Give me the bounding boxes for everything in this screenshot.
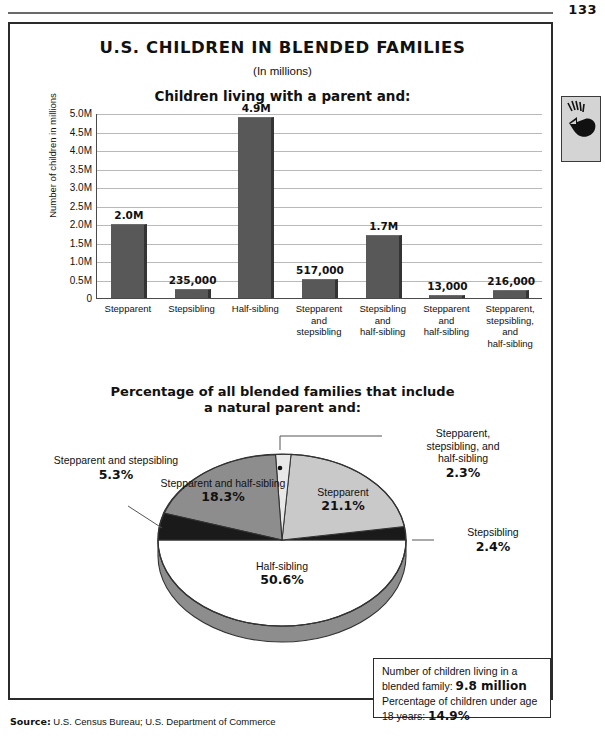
bar-value-label: 4.9M bbox=[224, 102, 288, 114]
bar-value-label: 13,000 bbox=[415, 280, 479, 292]
gridline bbox=[97, 133, 542, 134]
y-axis-tick-label: 3.0M bbox=[56, 183, 92, 193]
fact-row-number-of-children: Number of children living in a blended f… bbox=[382, 664, 543, 693]
y-axis-tick-label: 0 bbox=[56, 294, 92, 304]
bar bbox=[175, 289, 211, 298]
bar-value-label: 1.7M bbox=[352, 220, 416, 232]
pie-label-stepparent: Stepparent 21.1% bbox=[291, 486, 395, 512]
pie-label-stepparent-halfsibling: Stepparent and half-sibling 18.3% bbox=[160, 477, 286, 503]
y-axis-tick-label: 2.0M bbox=[56, 220, 92, 230]
pie-label-stepparent-value: 21.1% bbox=[291, 500, 395, 513]
pie-heading-line-1: Percentage of all blended families that … bbox=[111, 384, 455, 399]
page-number: 133 bbox=[568, 2, 597, 17]
figure-frame: U.S. CHILDREN IN BLENDED FAMILIES (In mi… bbox=[8, 22, 553, 700]
gridline bbox=[97, 262, 542, 263]
bar bbox=[429, 295, 465, 298]
bar-value-label: 517,000 bbox=[288, 264, 352, 276]
summary-fact-box: Number of children living in a blended f… bbox=[373, 658, 551, 718]
bar bbox=[366, 235, 402, 298]
pie-label-all-three: Stepparent, stepsibling, and half-siblin… bbox=[388, 427, 538, 479]
source-label: Source: bbox=[10, 716, 51, 727]
y-axis-tick-label: 4.0M bbox=[56, 146, 92, 156]
gridline bbox=[97, 225, 542, 226]
bar-chart-plot-area: 2.0M235,0004.9M517,0001.7M13,000216,000 bbox=[96, 114, 542, 299]
header-rule bbox=[8, 12, 553, 14]
bar bbox=[111, 224, 147, 298]
pie-chart-heading: Percentage of all blended families that … bbox=[10, 384, 555, 416]
gridline bbox=[97, 151, 542, 152]
bar bbox=[493, 290, 529, 298]
pie-label-all-three-line-1: Stepparent, bbox=[436, 427, 490, 439]
pie-label-stepparent-stepsibling-name: Stepparent and stepsibling bbox=[54, 454, 178, 466]
source-text: U.S. Census Bureau; U.S. Department of C… bbox=[53, 716, 275, 727]
pie-label-all-three-line-3: half-sibling bbox=[438, 452, 488, 464]
fact-value-number-of-children: 9.8 million bbox=[456, 679, 527, 693]
pie-label-stepparent-halfsibling-name: Stepparent and half-sibling bbox=[161, 477, 286, 489]
y-axis-tick-label: 4.5M bbox=[56, 128, 92, 138]
gridline bbox=[97, 188, 542, 189]
bar-value-label: 2.0M bbox=[97, 209, 161, 221]
source-note: Source: U.S. Census Bureau; U.S. Departm… bbox=[10, 716, 276, 727]
y-axis-tick-label: 3.5M bbox=[56, 165, 92, 175]
pie-label-halfsibling: Half-sibling 50.6% bbox=[216, 560, 348, 586]
bar-chart-y-axis-ticks: 00.5M1.0M1.5M2.0M2.5M3.0M3.5M4.0M4.5M5.0… bbox=[42, 114, 92, 299]
pie-label-stepsibling-name: Stepsibling bbox=[467, 526, 518, 538]
fact-value-percentage-under-18: 14.9% bbox=[428, 709, 470, 723]
gridline bbox=[97, 114, 542, 115]
pie-label-all-three-line-2: stepsibling, and bbox=[427, 440, 500, 452]
gridline bbox=[97, 170, 542, 171]
figure-subtitle: (In millions) bbox=[10, 65, 555, 77]
y-axis-tick-label: 2.5M bbox=[56, 202, 92, 212]
bar bbox=[238, 117, 274, 298]
pie-label-stepparent-halfsibling-value: 18.3% bbox=[160, 491, 286, 504]
page-root: 133 U.S. CHILDREN IN BLENDED FAMILIES (I… bbox=[0, 0, 605, 752]
pie-label-halfsibling-name: Half-sibling bbox=[256, 560, 308, 572]
gridline bbox=[97, 207, 542, 208]
pie-label-stepsibling-value: 2.4% bbox=[438, 541, 548, 554]
bar-chart: Number of children in millions 00.5M1.0M… bbox=[42, 114, 542, 344]
pie-chart: Stepparent and stepsibling 5.3% Steppare… bbox=[10, 422, 555, 652]
bar-value-label: 235,000 bbox=[161, 274, 225, 286]
pie-label-all-three-value: 2.3% bbox=[388, 467, 538, 480]
pie-label-stepsibling: Stepsibling 2.4% bbox=[438, 526, 548, 553]
y-axis-tick-label: 1.0M bbox=[56, 257, 92, 267]
pie-heading-line-2: a natural parent and: bbox=[204, 400, 361, 415]
gridline bbox=[97, 244, 542, 245]
bar bbox=[302, 279, 338, 298]
y-axis-tick-label: 1.5M bbox=[56, 239, 92, 249]
chapter-thumb-tab-icon bbox=[561, 96, 601, 162]
fact-row-percentage-under-18: Percentage of children under age 18 year… bbox=[382, 694, 543, 723]
x-axis-category-label: Stepparent,stepsibling,andhalf-sibling bbox=[472, 303, 548, 349]
figure-title: U.S. CHILDREN IN BLENDED FAMILIES bbox=[10, 38, 555, 57]
pie-label-halfsibling-value: 50.6% bbox=[216, 574, 348, 587]
y-axis-tick-label: 5.0M bbox=[56, 109, 92, 119]
y-axis-tick-label: 0.5M bbox=[56, 276, 92, 286]
pie-label-stepparent-name: Stepparent bbox=[317, 486, 368, 498]
bar-value-label: 216,000 bbox=[479, 275, 543, 287]
